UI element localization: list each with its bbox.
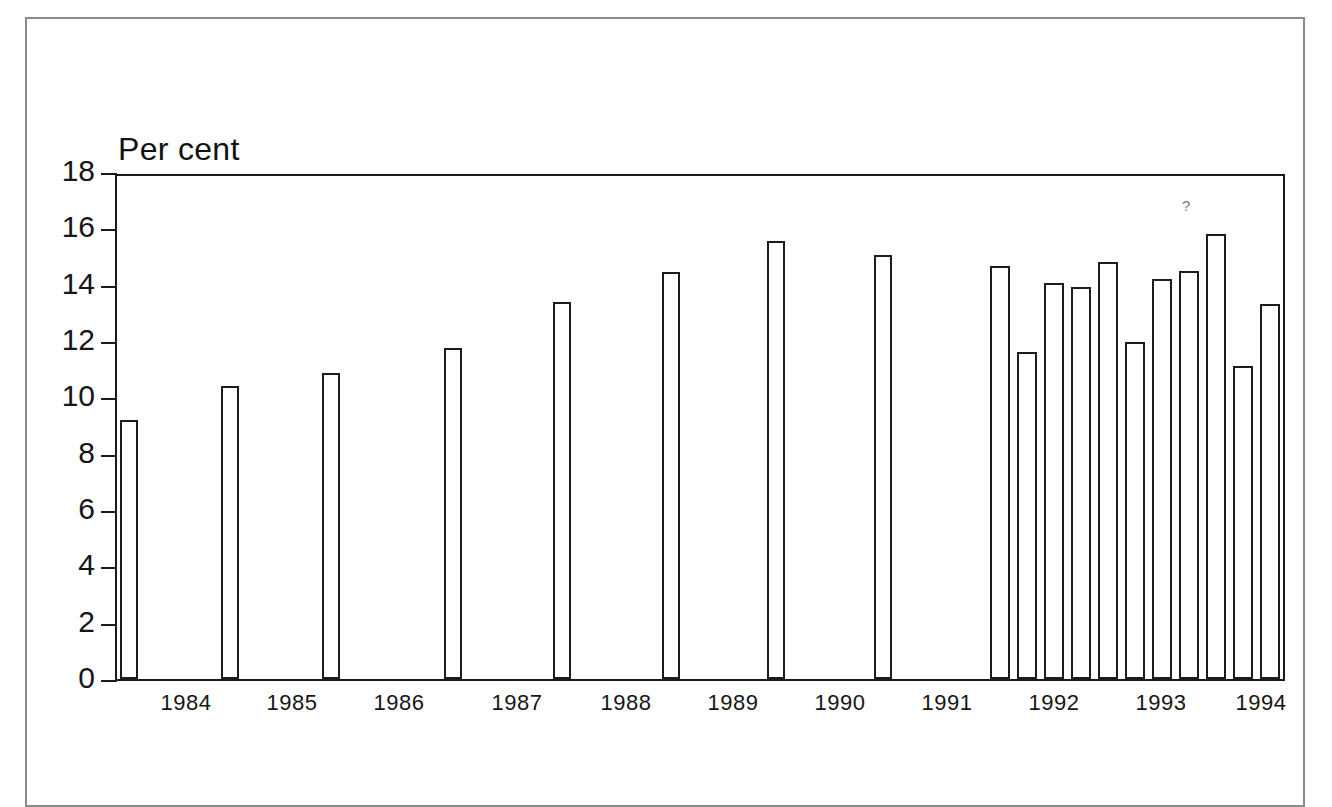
bar [1044, 283, 1064, 679]
bar [1017, 352, 1037, 679]
x-axis-tick-label: 1984 [161, 690, 212, 716]
y-axis-tick-label: 18 [29, 156, 95, 186]
x-axis-tick-label: 1987 [492, 690, 543, 716]
x-axis-tick-label: 1994 [1236, 690, 1287, 716]
bar [553, 302, 571, 679]
y-axis-tick [101, 286, 117, 288]
y-axis: 024681012141618 [0, 0, 95, 778]
x-axis-tick-label: 1989 [708, 690, 759, 716]
bar [1098, 262, 1118, 679]
y-axis-tick [101, 511, 117, 513]
y-axis-tick [101, 680, 117, 682]
y-axis-tick [101, 342, 117, 344]
y-axis-tick-label: 6 [29, 494, 95, 524]
bars-container [117, 176, 1283, 679]
y-axis-tick [101, 455, 117, 457]
x-axis-tick-label: 1990 [815, 690, 866, 716]
bar [1206, 234, 1226, 679]
y-axis-tick [101, 567, 117, 569]
bar [322, 373, 340, 679]
bar [221, 386, 239, 679]
x-axis-tick-label: 1993 [1136, 690, 1187, 716]
y-axis-tick-label: 8 [29, 438, 95, 468]
bar [767, 241, 785, 679]
bar [444, 348, 462, 679]
bar [120, 420, 138, 679]
x-axis-tick-label: 1992 [1029, 690, 1080, 716]
y-axis-tick [101, 229, 117, 231]
bar [1152, 279, 1172, 679]
x-axis-tick-label: 1988 [601, 690, 652, 716]
y-axis-tick [101, 173, 117, 175]
x-axis-tick-label: 1985 [267, 690, 318, 716]
bar [1233, 366, 1253, 679]
y-axis-tick [101, 624, 117, 626]
bar [1071, 287, 1091, 679]
y-axis-tick-label: 12 [29, 325, 95, 355]
y-axis-tick-label: 16 [29, 212, 95, 242]
bar [1179, 271, 1199, 679]
x-axis-tick-label: 1991 [922, 690, 973, 716]
y-axis-unit-caption: Per cent [118, 131, 240, 168]
y-axis-tick [101, 398, 117, 400]
y-axis-tick-label: 4 [29, 550, 95, 580]
bar [990, 266, 1010, 679]
x-axis-tick-label: 1986 [374, 690, 425, 716]
plot-area [115, 174, 1285, 681]
y-axis-tick-label: 10 [29, 381, 95, 411]
bar [662, 272, 680, 679]
bar [874, 255, 892, 679]
y-axis-tick-label: 0 [29, 663, 95, 693]
bar [1260, 304, 1280, 679]
bar [1125, 342, 1145, 679]
y-axis-tick-label: 2 [29, 607, 95, 637]
y-axis-tick-label: 14 [29, 269, 95, 299]
